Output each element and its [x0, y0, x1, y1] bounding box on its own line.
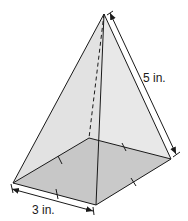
lateral-edge-label: 5 in.	[143, 71, 166, 85]
base-edge-label: 3 in.	[32, 203, 55, 217]
pyramid-diagram: 5 in. 3 in.	[0, 0, 188, 221]
